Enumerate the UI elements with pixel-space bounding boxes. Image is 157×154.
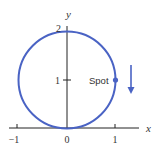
y-tick-label-1: 1	[55, 75, 60, 86]
spot-label: Spot	[89, 75, 109, 86]
x-tick-label-neg1: −1	[9, 134, 20, 145]
y-tick-label-2: 2	[56, 23, 61, 34]
circle-diagram: x y −1 0 1 1 2 Spot	[0, 0, 157, 154]
x-tick-label-1: 1	[113, 134, 118, 145]
arrow-down-icon	[128, 87, 135, 94]
x-axis-label: x	[145, 122, 151, 134]
y-axis-label: y	[65, 8, 71, 20]
spot-marker	[113, 77, 118, 82]
x-tick-label-0: 0	[65, 134, 70, 145]
